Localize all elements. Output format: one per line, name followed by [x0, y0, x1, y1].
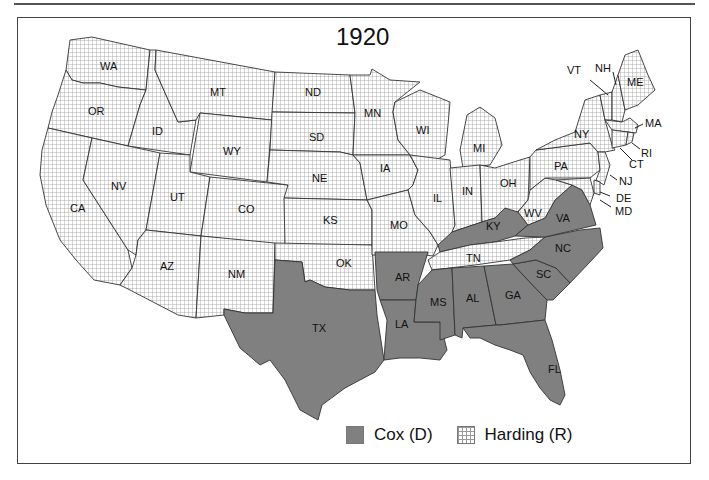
map-title: 1920	[336, 23, 389, 51]
label-CA: CA	[70, 202, 86, 214]
label-MD: MD	[615, 205, 632, 217]
label-TX: TX	[312, 322, 327, 334]
label-NM: NM	[228, 268, 245, 280]
us-election-map: WA OR CA ID NV MT WY UT CO AZ NM ND SD N…	[0, 0, 709, 480]
label-MA: MA	[645, 117, 662, 129]
leader-NJ	[610, 175, 617, 180]
label-ID: ID	[152, 125, 163, 137]
legend-item-harding: Harding (R)	[457, 425, 573, 445]
label-FL: FL	[548, 363, 561, 375]
label-MS: MS	[430, 296, 447, 308]
label-SD: SD	[309, 131, 324, 143]
label-OR: OR	[88, 105, 105, 117]
label-DE: DE	[616, 192, 631, 204]
label-GA: GA	[505, 289, 522, 301]
label-IL: IL	[433, 192, 442, 204]
label-UT: UT	[170, 191, 185, 203]
label-ME: ME	[627, 76, 644, 88]
label-CO: CO	[238, 203, 255, 215]
label-OK: OK	[336, 257, 353, 269]
label-AR: AR	[395, 271, 410, 283]
label-MO: MO	[390, 219, 408, 231]
state-DE	[594, 180, 600, 195]
label-KY: KY	[486, 220, 501, 232]
label-NC: NC	[555, 242, 571, 254]
label-WA: WA	[100, 60, 118, 72]
leader-NH	[613, 72, 616, 85]
harding-swatch-icon	[457, 426, 475, 444]
label-CT: CT	[629, 158, 644, 170]
leader-DE	[600, 192, 610, 196]
label-OH: OH	[500, 177, 517, 189]
label-TN: TN	[466, 252, 481, 264]
label-ND: ND	[305, 86, 321, 98]
state-IN	[450, 165, 482, 232]
label-NV: NV	[111, 180, 127, 192]
label-IA: IA	[380, 162, 391, 174]
legend-label-harding: Harding (R)	[485, 425, 573, 445]
label-LA: LA	[395, 318, 409, 330]
label-WY: WY	[223, 145, 241, 157]
label-NY: NY	[574, 128, 590, 140]
state-CT	[612, 130, 628, 148]
legend-label-cox: Cox (D)	[374, 425, 433, 445]
label-MI: MI	[473, 142, 485, 154]
label-NJ: NJ	[619, 175, 632, 187]
state-MI	[460, 107, 502, 168]
label-VA: VA	[556, 212, 571, 224]
label-AZ: AZ	[160, 260, 174, 272]
label-WV: WV	[524, 207, 542, 219]
label-SC: SC	[536, 268, 551, 280]
legend-item-cox: Cox (D)	[346, 425, 433, 445]
label-MN: MN	[364, 107, 381, 119]
legend: Cox (D) Harding (R)	[346, 425, 596, 445]
label-KS: KS	[323, 214, 338, 226]
label-PA: PA	[554, 160, 569, 172]
cox-swatch-icon	[346, 426, 364, 444]
label-IN: IN	[462, 185, 473, 197]
leader-RI	[632, 143, 640, 149]
label-NH: NH	[595, 62, 611, 74]
leader-VT	[590, 80, 608, 95]
leader-MD	[600, 200, 611, 207]
label-AL: AL	[466, 292, 479, 304]
label-WI: WI	[416, 124, 429, 136]
label-MT: MT	[210, 86, 226, 98]
label-NE: NE	[312, 172, 327, 184]
label-VT: VT	[567, 64, 581, 76]
